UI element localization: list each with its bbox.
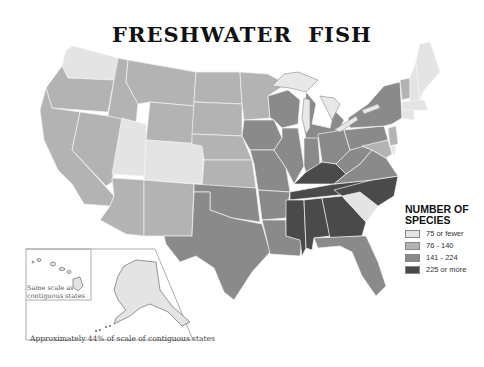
legend-swatch <box>405 254 420 262</box>
legend: NUMBER OF SPECIES 75 or fewer 76 - 140 1… <box>405 204 484 274</box>
state-arkansas <box>258 190 290 220</box>
state-kansas <box>202 160 256 188</box>
lake-michigan <box>302 98 310 134</box>
state-north-dakota <box>194 72 242 104</box>
state-maine <box>416 42 440 100</box>
state-washington <box>62 46 118 80</box>
legend-label: 76 - 140 <box>426 241 454 250</box>
state-colorado <box>144 140 204 184</box>
legend-item: 225 or more <box>405 265 484 274</box>
state-iowa <box>242 120 282 150</box>
hawaii-inset-label: Same scale as contiguous states <box>27 284 87 300</box>
legend-label: 141 - 224 <box>426 253 458 262</box>
state-montana <box>126 60 196 106</box>
state-vermont <box>400 78 410 100</box>
state-new-mexico <box>144 180 194 236</box>
legend-title-line2: SPECIES <box>405 215 484 226</box>
legend-item: 75 or fewer <box>405 229 484 238</box>
alaska-inset-label: Approximately 44% of scale of contiguous… <box>30 334 215 343</box>
state-wyoming <box>146 102 194 144</box>
aleutian-islands <box>95 325 111 332</box>
state-arizona <box>100 178 144 236</box>
legend-swatch <box>405 242 420 250</box>
state-massachusetts <box>402 100 428 110</box>
legend-swatch <box>405 266 420 274</box>
state-south-dakota <box>192 102 242 136</box>
alaska <box>114 260 190 326</box>
legend-label: 75 or fewer <box>426 229 464 238</box>
legend-label: 225 or more <box>426 265 466 274</box>
legend-swatch <box>405 230 420 238</box>
state-connecticut <box>402 110 414 120</box>
us-map <box>0 0 484 367</box>
state-florida <box>314 236 386 296</box>
legend-item: 76 - 140 <box>405 241 484 250</box>
state-new-jersey <box>388 126 398 146</box>
legend-item: 141 - 224 <box>405 253 484 262</box>
